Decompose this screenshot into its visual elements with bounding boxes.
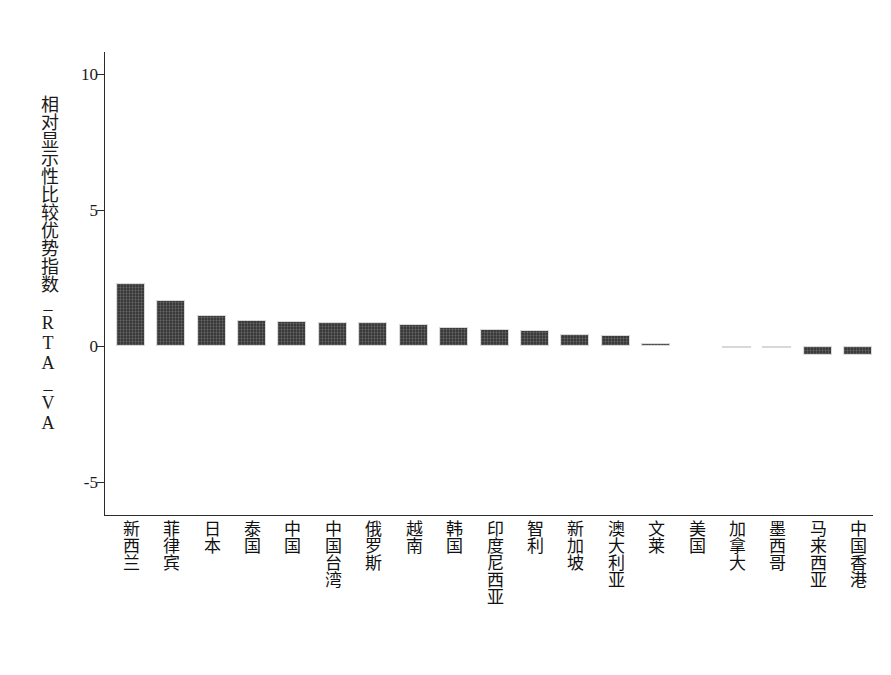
x-axis-labels: 新西兰菲律宾日本泰国中国中国台湾俄罗斯越南韩国印度尼西亚智利新加坡澳大利亚文莱美… (104, 520, 873, 670)
y-tick-label: 10 (81, 65, 98, 82)
bar-6 (358, 322, 387, 346)
y-tick-label: 0 (90, 338, 99, 355)
x-axis-label-8: 韩国 (444, 520, 463, 554)
x-axis-label-18: 中国香港 (848, 520, 867, 588)
x-axis-label-2: 日本 (201, 520, 220, 554)
plot-area: 1050-5 (104, 52, 872, 515)
bar-16 (762, 346, 791, 348)
y-axis-title-text: 相对显示性比较优势指数_RTA_VA (35, 95, 59, 433)
bar-5 (318, 322, 347, 347)
x-axis-label-13: 文莱 (646, 520, 665, 554)
bar-15 (722, 346, 751, 348)
y-tick-label: 5 (90, 201, 99, 218)
bar-13 (641, 343, 670, 346)
x-axis-label-15: 加拿大 (727, 520, 746, 571)
bar-3 (237, 320, 266, 346)
bar-10 (520, 330, 549, 346)
bar-18 (843, 346, 872, 354)
x-axis-label-11: 新加坡 (565, 520, 584, 571)
bar-7 (399, 324, 428, 346)
x-axis-label-10: 智利 (524, 520, 543, 554)
x-axis-line (104, 515, 873, 516)
bar-17 (803, 346, 832, 355)
x-axis-label-5: 中国台湾 (322, 520, 341, 588)
bar-2 (197, 315, 226, 346)
x-axis-label-7: 越南 (403, 520, 422, 554)
bar-0 (116, 283, 145, 346)
x-axis-label-12: 澳大利亚 (605, 520, 624, 588)
bar-12 (601, 335, 630, 346)
y-tick-label: -5 (84, 474, 98, 491)
bar-series (104, 52, 872, 515)
bar-4 (277, 321, 306, 346)
y-axis-title: 相对显示性比较优势指数_RTA_VA (30, 95, 64, 440)
bar-1 (156, 300, 185, 346)
y-tick-mark (97, 210, 104, 211)
chart-figure: 相对显示性比较优势指数_RTA_VA 1050-5 新西兰菲律宾日本泰国中国中国… (0, 0, 891, 675)
x-axis-label-3: 泰国 (241, 520, 260, 554)
y-tick-mark (97, 74, 104, 75)
x-axis-label-17: 马来西亚 (807, 520, 826, 588)
bar-11 (560, 334, 589, 347)
x-axis-label-0: 新西兰 (120, 520, 139, 571)
x-axis-label-14: 美国 (686, 520, 705, 554)
x-axis-label-16: 墨西哥 (767, 520, 786, 571)
bar-8 (439, 327, 468, 346)
x-axis-label-4: 中国 (282, 520, 301, 554)
x-axis-label-6: 俄罗斯 (363, 520, 382, 571)
x-axis-label-9: 印度尼西亚 (484, 520, 503, 605)
y-tick-mark (97, 346, 104, 347)
y-tick-mark (97, 482, 104, 483)
bar-9 (480, 329, 509, 346)
x-axis-label-1: 菲律宾 (161, 520, 180, 571)
